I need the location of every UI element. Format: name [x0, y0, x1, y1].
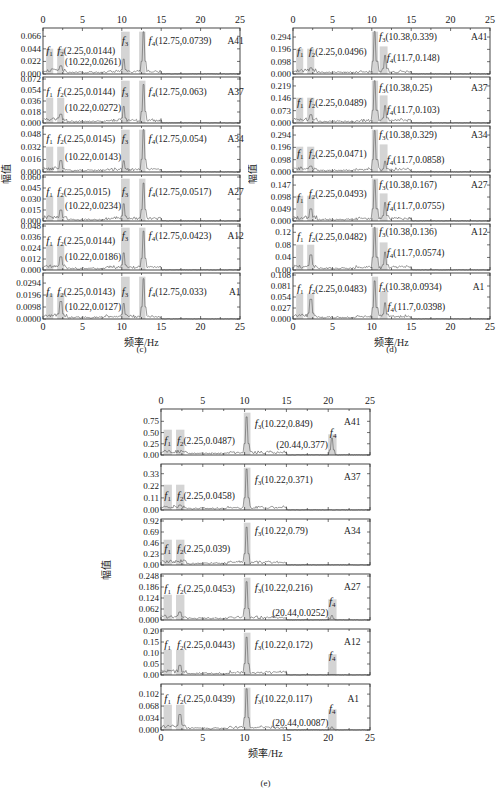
y-tick-label: 0.0000 — [16, 314, 41, 324]
svg-text:20: 20 — [196, 321, 206, 332]
subplot-a41: 0.000.250.500.75f1f2(2.25,0.0487)f3(10.2… — [143, 409, 370, 460]
svg-text:20: 20 — [446, 14, 456, 25]
annotation: f2(2.25,0.0144) — [57, 234, 115, 248]
frequency-band — [372, 228, 378, 270]
annotation: f1 — [46, 44, 53, 58]
svg-text:15: 15 — [281, 395, 291, 406]
subplot-a37: 0.000.110.220.33f1f2(2.25,0.0458)f3(10.2… — [143, 464, 370, 515]
svg-text:5: 5 — [200, 732, 205, 743]
subplot-a41: 0.0000.0220.0440.066f1f2(2.25,0.0144)(10… — [21, 28, 244, 79]
frequency-band — [57, 196, 64, 221]
y-tick-label: 0.196 — [271, 44, 292, 54]
subplot-a34: 0.000.230.460.690.92f1f2(2.25,0.039)f3(1… — [143, 516, 370, 570]
y-tick-label: 0.75 — [143, 416, 159, 426]
annotation: f4(11.7,0.0574) — [387, 246, 445, 260]
y-tick-label: 0.000 — [271, 314, 292, 324]
y-tick-label: 0.000 — [271, 69, 292, 79]
svg-text:0: 0 — [291, 321, 296, 332]
plot-frame — [161, 574, 370, 620]
y-tick-label: 0.045 — [21, 183, 42, 193]
figure-e: 05101520250.000.250.500.75f1f2(2.25,0.04… — [100, 390, 396, 794]
annotation: f2(2.25,0.0487) — [177, 434, 235, 448]
annotation: f2(2.25,0.0145) — [57, 132, 115, 146]
frequency-band — [372, 32, 378, 74]
annotation: f2(2.25,0.0496) — [309, 45, 367, 59]
annotation: A12 — [344, 637, 361, 647]
annotation: A37 — [344, 472, 361, 482]
y-tick-label: 0.032 — [21, 142, 41, 152]
top-axis-labels: 0510152025 — [41, 14, 246, 25]
y-tick-label: 0.05 — [143, 659, 159, 669]
svg-text:15: 15 — [406, 321, 416, 332]
frequency-band — [307, 294, 314, 319]
y-tick-label: 0.00 — [143, 505, 159, 515]
annotation: (10.22,0.0234) — [65, 201, 121, 212]
annotation: (20.44,0.0087) — [272, 718, 328, 729]
svg-text:0: 0 — [291, 14, 296, 25]
annotation: A37 — [227, 87, 244, 97]
frequency-band — [307, 245, 314, 270]
subplot-a12: 0.000.040.080.12f1f2(2.25,0.0482)f3(10.3… — [275, 224, 490, 275]
annotation: f2(2.25,0.039) — [177, 542, 230, 556]
annotation: f2(2.25,0.0144) — [57, 85, 115, 99]
annotation: f1 — [46, 132, 53, 146]
annotation: f2(2.25,0.0439) — [177, 692, 235, 706]
annotation: f3(10.22,0.216) — [255, 581, 313, 595]
svg-text:10: 10 — [240, 395, 250, 406]
plot-frame — [161, 464, 370, 510]
y-tick-label: 0.049 — [271, 204, 292, 214]
frequency-band — [372, 179, 378, 221]
svg-text:10: 10 — [367, 321, 377, 332]
subplot-a41: 0.0000.0980.1960.294f1f2(2.25,0.0496)f3(… — [271, 28, 490, 79]
svg-text:5: 5 — [330, 321, 335, 332]
subplot-a12: 0.000.050.100.150.20f1f2(2.25,0.0443)f3(… — [143, 626, 370, 680]
subplot-a37: 0.0000.0180.0360.0540.072f1f2(2.25,0.014… — [21, 74, 244, 128]
subplot-a12: 0.0000.0120.0240.0360.048f1f2(2.25,0.014… — [21, 221, 244, 275]
annotation: f2(2.25,0.0443) — [177, 638, 235, 652]
annotation: f1 — [297, 282, 304, 296]
y-tick-label: 0.15 — [143, 637, 159, 647]
annotation: f2(2.25,0.0458) — [177, 489, 235, 503]
annotation: f3(10.22,0.172) — [255, 638, 313, 652]
y-tick-label: 0.294 — [271, 130, 292, 140]
annotation: f1 — [297, 230, 304, 244]
y-tick-label: 0.060 — [21, 172, 42, 182]
annotation: f4 — [330, 426, 337, 440]
annotation: f1 — [46, 234, 53, 248]
annotation: (10.22,0.0272) — [65, 103, 121, 114]
svg-text:15: 15 — [156, 14, 166, 25]
annotation: f2(2.25,0.0482) — [309, 230, 367, 244]
svg-text:25: 25 — [485, 321, 495, 332]
x-axis-title: 频率/Hz — [248, 747, 283, 759]
svg-text:5: 5 — [80, 321, 85, 332]
y-tick-label: 0.054 — [21, 85, 42, 95]
annotation: f4(11.7,0.148) — [387, 51, 440, 65]
y-tick-label: 0.022 — [21, 56, 41, 66]
annotation: f4(11.7,0.0398) — [388, 300, 446, 314]
annotation: f1 — [164, 692, 171, 706]
annotation: f1 — [46, 185, 53, 199]
annotation: f3(10.22,0.849) — [255, 417, 313, 431]
annotation: f4(11.7,0.0755) — [387, 199, 445, 213]
y-tick-label: 0.04 — [275, 252, 291, 262]
annotation: f1 — [164, 582, 171, 596]
y-tick-label: 0.018 — [21, 107, 42, 117]
y-tick-label: 0.0098 — [16, 302, 41, 312]
y-tick-label: 0.00 — [143, 450, 159, 460]
annotation: A27 — [471, 180, 488, 190]
subplot-a37: 0.0000.0730.1460.219f1f2(2.25,0.0489)f3(… — [271, 77, 490, 128]
bottom-axis-labels: 0510152025 — [159, 732, 376, 743]
annotation: A37 — [471, 83, 488, 93]
frequency-band — [176, 595, 184, 620]
y-tick-label: 0.25 — [143, 439, 159, 449]
y-axis-title: 幅值 — [248, 164, 258, 184]
svg-text:5: 5 — [330, 14, 335, 25]
y-tick-label: 0.000 — [139, 615, 160, 625]
annotation: A12 — [471, 227, 488, 237]
svg-text:25: 25 — [365, 732, 375, 743]
annotation: A34 — [344, 526, 361, 536]
subplot-a1: 0.0000.0340.0680.102f1f2(2.25,0.0439)f3(… — [139, 684, 370, 735]
y-tick-label: 0.027 — [271, 303, 292, 313]
annotation: (10.22,0.0127) — [65, 302, 121, 313]
annotation: f4(12.75,0.033) — [149, 285, 207, 299]
